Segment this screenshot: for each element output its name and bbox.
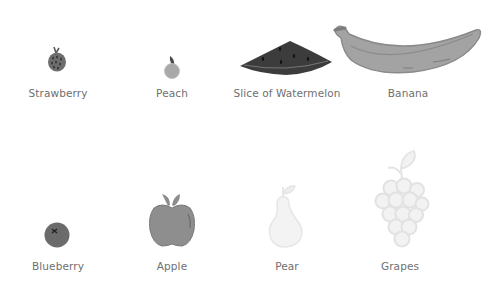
fruit-label: Apple [157, 260, 187, 272]
pear-icon [267, 183, 307, 249]
blueberry-icon [43, 221, 71, 249]
grapes-icon [368, 148, 432, 250]
watermelon-slice-icon [238, 40, 334, 76]
fruit-label: Pear [275, 260, 299, 272]
apple-icon [148, 192, 196, 248]
fruit-label: Strawberry [29, 87, 88, 99]
banana-icon [333, 22, 483, 77]
peach-icon [160, 54, 184, 80]
fruit-label: Peach [156, 87, 188, 99]
strawberry-icon [44, 46, 70, 76]
fruit-label: Slice of Watermelon [234, 87, 341, 99]
fruit-label: Banana [388, 87, 428, 99]
fruit-label: Grapes [381, 260, 419, 272]
fruit-label: Blueberry [32, 260, 84, 272]
